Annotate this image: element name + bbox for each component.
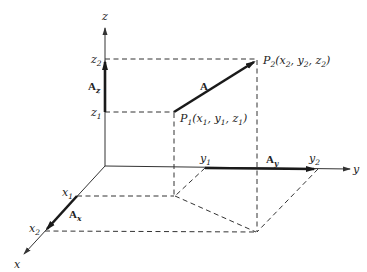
vector-ay — [205, 168, 314, 169]
x2-label: x2 — [29, 222, 40, 237]
vector-az-label: Az — [88, 80, 101, 95]
z1-label: z1 — [90, 106, 102, 121]
vector-a — [174, 62, 254, 112]
z2-label: z2 — [90, 53, 102, 68]
y2-label: y2 — [308, 152, 320, 167]
projection-lines — [45, 59, 318, 232]
vector-components-diagram: z y x z2 z1 y1 y2 x1 x2 A Az Ay Ax P1(x1… — [0, 0, 367, 272]
vector-ax-label: Ax — [69, 208, 82, 223]
y1-label: y1 — [199, 152, 211, 167]
x1-label: x1 — [62, 186, 73, 201]
p1-label: P1(x1, y1, z1) — [179, 112, 247, 127]
y-axis-label: y — [352, 163, 360, 176]
x-axis-label: x — [14, 258, 21, 271]
p2-label: P2(x2, y2, z2) — [262, 54, 330, 69]
vector-a-label: A — [200, 80, 208, 92]
vector-ay-label: Ay — [266, 153, 279, 168]
z-axis-label: z — [101, 10, 108, 23]
